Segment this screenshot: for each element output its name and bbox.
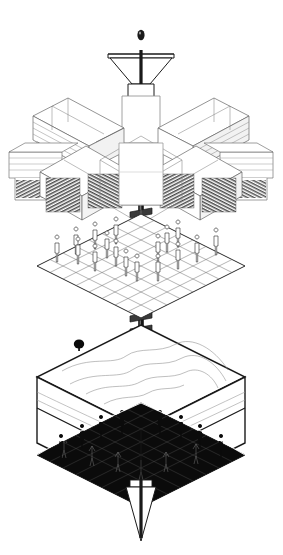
detached-screw-cap [137, 30, 144, 40]
core-box-overlay [119, 143, 163, 205]
diagram-canvas [0, 0, 283, 555]
exploded-axonometric-illustration [0, 0, 283, 555]
